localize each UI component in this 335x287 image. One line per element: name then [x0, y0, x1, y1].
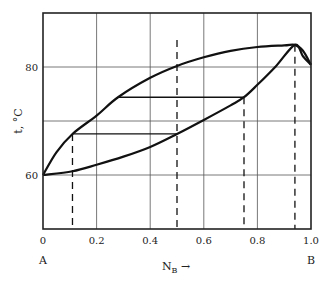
x-tick-label: 0	[40, 235, 46, 246]
phase-diagram-chart: 00.20.40.60.81.0 6080 A B NB → t, °C	[0, 0, 335, 287]
x-tick-label: 0.4	[142, 235, 158, 246]
y-tick-label: 60	[25, 170, 38, 181]
y-axis-label: t, °C	[12, 108, 25, 133]
y-tick-label: 80	[25, 62, 38, 73]
x-axis-label: NB →	[162, 260, 190, 275]
x-tick-label: 1.0	[303, 235, 319, 246]
x-tick-label: 0.2	[89, 235, 105, 246]
x-right-end-label: B	[307, 254, 315, 267]
y-tick-labels: 6080	[25, 62, 38, 181]
x-tick-label: 0.8	[249, 235, 265, 246]
x-left-end-label: A	[38, 254, 48, 267]
x-tick-label: 0.6	[196, 235, 212, 246]
x-tick-labels: 00.20.40.60.81.0	[40, 235, 319, 246]
